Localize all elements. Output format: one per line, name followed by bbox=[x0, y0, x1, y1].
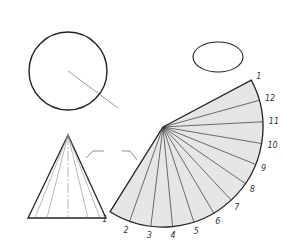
pattern-point-label: 9 bbox=[261, 164, 266, 173]
pattern-point-label: 8 bbox=[250, 185, 255, 194]
pattern-point-label: 1 bbox=[102, 215, 107, 224]
pattern-point-label: 1 bbox=[256, 72, 261, 81]
pattern-point-label: 4 bbox=[170, 231, 175, 240]
pattern-point-label: 10 bbox=[268, 141, 278, 150]
top-view bbox=[29, 32, 118, 110]
fl-line bbox=[68, 71, 118, 108]
pattern-point-label: 3 bbox=[147, 231, 152, 240]
pictorial-base-ellipse bbox=[193, 42, 243, 72]
pattern-point-label: 5 bbox=[194, 227, 199, 236]
pattern-point-label: 2 bbox=[124, 226, 129, 235]
cone-development-drawing: 1121110987654321 bbox=[0, 0, 284, 240]
pattern: 1121110987654321 bbox=[102, 72, 279, 240]
pattern-point-label: 7 bbox=[234, 203, 240, 212]
pattern-point-label: 6 bbox=[215, 217, 220, 226]
pattern-point-label: 12 bbox=[265, 94, 275, 103]
pattern-point-label: 11 bbox=[269, 117, 279, 126]
pictorial-cone bbox=[193, 42, 243, 72]
tl-leader bbox=[86, 151, 137, 160]
pattern-sector bbox=[110, 80, 263, 227]
